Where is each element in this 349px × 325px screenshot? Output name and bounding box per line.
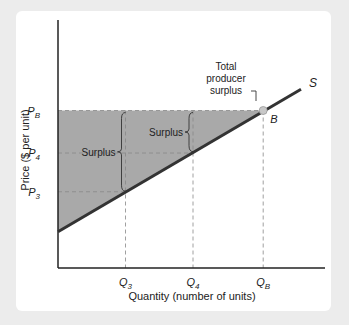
x-tick-label-0: Q3	[119, 276, 133, 291]
producer-surplus-chart: SBQ3Q4QBPBP4P3TotalproducersurplusSurplu…	[0, 0, 349, 325]
x-tick-label-2: QB	[256, 276, 271, 291]
surplus-label-q3: Surplus	[82, 147, 116, 158]
total-surplus-label-line-2: surplus	[210, 85, 242, 96]
surplus-label-q4: Surplus	[149, 127, 183, 138]
total-surplus-pointer	[251, 91, 256, 101]
supply-curve-label: S	[309, 76, 317, 90]
total-surplus-label-line-1: producer	[206, 73, 246, 84]
point-b-label: B	[270, 113, 277, 125]
total-surplus-label-line-0: Total	[215, 61, 236, 72]
x-axis-label: Quantity (number of units)	[128, 290, 255, 302]
x-tick-label-1: Q4	[186, 276, 200, 291]
y-axis-label: Price ($ per unit)	[19, 109, 31, 190]
point-b-marker	[259, 107, 267, 115]
